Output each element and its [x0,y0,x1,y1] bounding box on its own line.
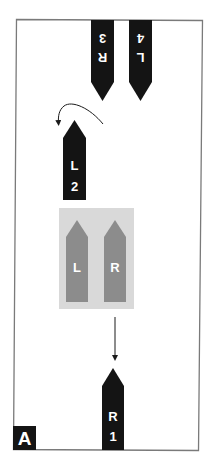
footprint-arrow-r3: R 3 [91,20,114,101]
footprint-arrow-l4: L 4 [129,20,152,101]
arrow-step-number: 3 [99,31,106,46]
arrow-side-label: R [97,50,107,65]
zone-arrow-label: R [110,260,120,275]
zone-arrow-right: R [104,220,126,302]
footprint-arrow-r1: R 1 [102,368,124,450]
zone-arrow-label: L [73,260,81,275]
panel-label-badge: A [13,426,36,450]
arrow-side-label: R [108,409,118,424]
footprint-arrow-l2: L 2 [63,120,86,200]
panel-label: A [18,428,32,449]
step-sequence-diagram: R 3 L 4 L 2 L R R 1 [0,0,210,467]
arrow-side-label: L [136,50,144,65]
zone-arrow-left: L [66,220,88,302]
arrow-side-label: L [71,158,79,173]
start-zone: L R [59,208,134,309]
arrow-step-number: 2 [71,179,78,194]
curved-connector-arrow [58,104,103,124]
arrow-step-number: 4 [136,31,144,46]
arrow-step-number: 1 [109,429,116,444]
